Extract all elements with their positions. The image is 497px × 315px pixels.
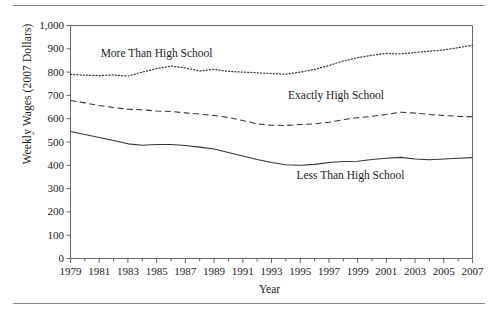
series-line-more-than-high-school	[71, 45, 473, 76]
series-line-exactly-high-school	[71, 101, 473, 126]
axis-frame	[71, 26, 473, 259]
figure-container: Weekly Wages (2007 Dollars) Year 0100200…	[0, 0, 497, 315]
plot-area	[0, 0, 497, 315]
axes-group	[71, 26, 473, 259]
data-series-group	[71, 45, 473, 165]
series-line-less-than-high-school	[71, 132, 473, 166]
